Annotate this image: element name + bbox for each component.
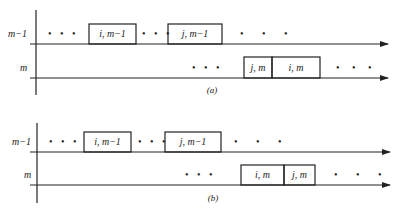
ellipsis: • • •	[49, 136, 80, 147]
row-label-m: m	[20, 62, 27, 73]
box-label: i, m	[255, 169, 270, 180]
box-label: j, m	[249, 62, 266, 73]
ellipsis: • • •	[334, 169, 390, 180]
panel-caption: (a)	[207, 85, 218, 95]
box-label: j, m−1	[178, 136, 207, 147]
box-label: i, m−1	[94, 136, 121, 147]
row-label-m-minus-1: m−1	[12, 136, 31, 147]
row-label-m: m	[24, 169, 31, 180]
ellipsis: • • •	[138, 136, 169, 147]
ellipsis: • • •	[336, 62, 377, 73]
box-label: j, m	[290, 169, 307, 180]
ellipsis: • • •	[48, 28, 79, 39]
box-label: i, m	[289, 62, 304, 73]
panel-caption: (b)	[208, 193, 219, 203]
row-label-m-minus-1: m−1	[8, 28, 27, 39]
ellipsis: • • •	[192, 62, 223, 73]
box-label: j, m−1	[180, 28, 209, 39]
box-label: i, m−1	[99, 28, 126, 39]
ellipsis: • • •	[234, 136, 290, 147]
panel-b: m−1 m • • • i, m−1 • • • j, m−1 • • • • …	[12, 123, 390, 203]
ellipsis: • • •	[240, 28, 296, 39]
timing-diagram: m−1 m • • • i, m−1 • • • j, m−1 • • • • …	[0, 0, 404, 212]
panel-a: m−1 m • • • i, m−1 • • • j, m−1 • • • • …	[8, 10, 388, 95]
ellipsis: • • •	[185, 169, 216, 180]
